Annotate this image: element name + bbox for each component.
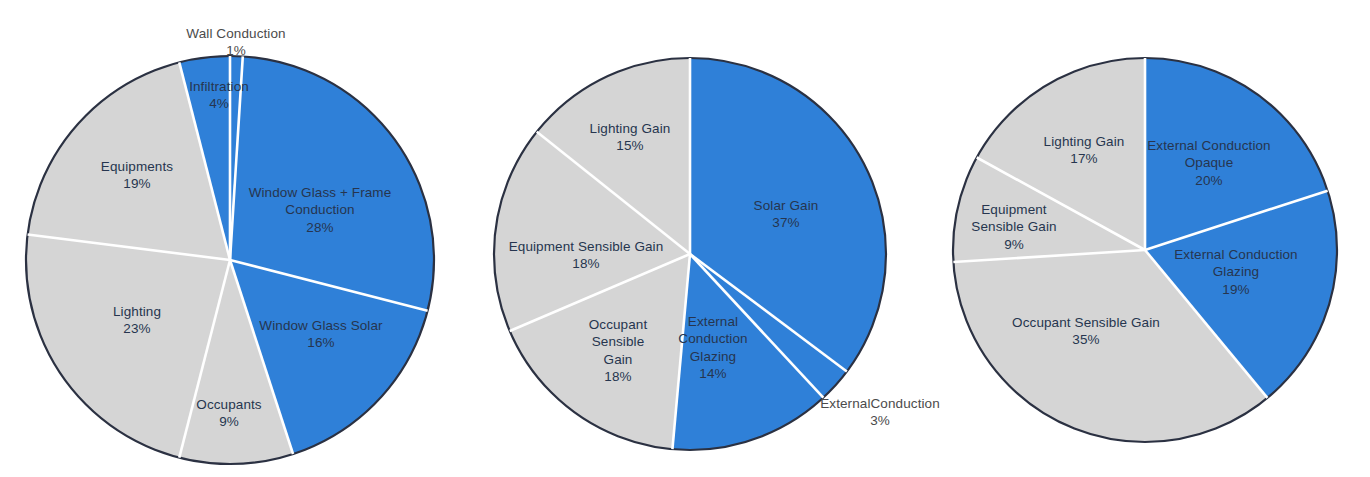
pie-chart-1 — [26, 56, 434, 464]
pie-chart-canvas — [0, 0, 1370, 477]
pie-chart-3 — [953, 58, 1337, 442]
pie-chart-2 — [494, 58, 886, 450]
pie-chart-figure: Wall Conduction1%Window Glass + Frame Co… — [0, 0, 1370, 477]
